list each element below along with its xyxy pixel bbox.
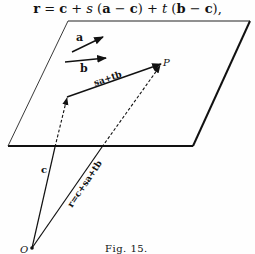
plane-diagram: a b sa+tb P c r=c+sa+tb O Fig. 15. — [0, 0, 255, 254]
vector-c-label: c — [41, 164, 47, 175]
vector-c-line — [32, 147, 55, 248]
c-dashed-extension — [55, 98, 67, 147]
position-vector-line — [32, 147, 102, 248]
point-p-label: P — [162, 57, 170, 68]
vector-b-label: b — [80, 62, 88, 75]
vector-a-label: a — [76, 31, 83, 44]
figure-caption: Fig. 15. — [105, 243, 148, 254]
position-vector-label: r=c+sa+tb — [65, 159, 104, 210]
plane — [8, 21, 250, 146]
origin-point — [30, 246, 34, 250]
figure-15: r = c + s (a − c) + t (b − c), a b sa+tb… — [0, 0, 255, 254]
in-plane-vector-label: sa+tb — [92, 69, 123, 88]
origin-label: O — [20, 244, 28, 254]
